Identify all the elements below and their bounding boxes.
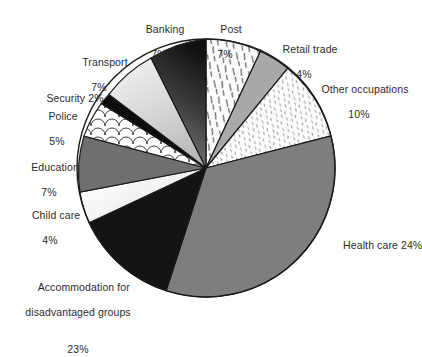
slice-label-education-pct: 7% xyxy=(12,186,86,199)
slice-label-post-name: Post xyxy=(220,23,241,35)
slice-label-transport-name: Transport xyxy=(82,56,128,68)
slice-label-accommodation-line2: disadvantaged groups xyxy=(6,306,150,319)
slice-label-health-care: Health care 24% xyxy=(331,226,421,264)
slice-label-post: Post 7% xyxy=(194,10,256,85)
slice-label-health-care-text: Health care 24% xyxy=(343,239,422,251)
slice-label-other-occupations: Other occupations 10% xyxy=(298,70,420,145)
slice-label-transport: Transport 7% xyxy=(56,43,142,118)
slice-label-accommodation-line1: Accommodation for xyxy=(38,281,130,293)
slice-label-other-occupations-name: Other occupations xyxy=(322,83,409,95)
slice-label-banking-name: Banking xyxy=(146,23,185,35)
slice-label-other-occupations-pct: 10% xyxy=(298,108,420,121)
slice-label-accommodation-pct: 23% xyxy=(6,343,150,356)
slice-label-transport-pct: 7% xyxy=(56,81,142,94)
slice-label-police-pct: 5% xyxy=(28,135,86,148)
slice-label-child-care-pct: 4% xyxy=(12,234,88,247)
slice-label-post-pct: 7% xyxy=(194,48,256,61)
slice-label-retail-trade-name: Retail trade xyxy=(283,43,338,55)
slice-label-accommodation: Accommodation for disadvantaged groups 2… xyxy=(6,268,150,357)
